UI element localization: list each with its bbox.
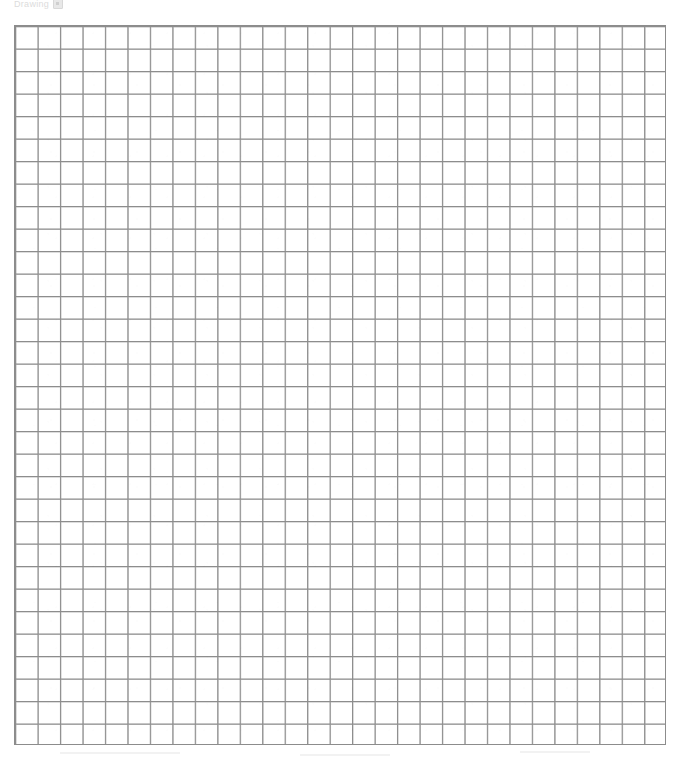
graph-paper-grid[interactable] <box>14 25 666 745</box>
scan-smudge <box>60 752 180 754</box>
document-icon <box>53 0 63 9</box>
drawing-title-text: Drawing <box>14 0 49 9</box>
scan-smudge <box>300 754 390 756</box>
scan-smudge <box>520 751 590 753</box>
grid-surface[interactable] <box>15 26 665 744</box>
drawing-header-label: Drawing <box>14 0 63 11</box>
drawing-canvas-page: Drawing <box>0 0 681 760</box>
